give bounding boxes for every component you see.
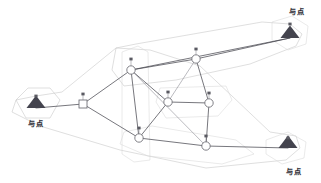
- node-shape-circle[interactable]: [127, 66, 135, 74]
- site-triangle-icon[interactable]: [281, 26, 300, 39]
- node-n7[interactable]: [202, 135, 210, 151]
- edge-n2-to-n5: [196, 59, 209, 103]
- site-flag-marker: [34, 95, 37, 98]
- network-diagram: 与点与点与点: [0, 0, 321, 183]
- edge-n2-to-site-top-right: [196, 38, 290, 59]
- node-shape-circle[interactable]: [164, 98, 172, 106]
- node-shape-circle[interactable]: [135, 134, 143, 142]
- node-flag-marker: [166, 91, 169, 94]
- region-outline-layer: [12, 16, 308, 168]
- edge-n1-to-site-top-right: [131, 38, 290, 70]
- edge-n5-to-n7: [206, 103, 209, 146]
- edge-n7-to-site-bottom-right: [206, 146, 288, 148]
- site-site-left[interactable]: [27, 95, 46, 108]
- node-flag-marker: [137, 127, 140, 130]
- site-flag-marker: [288, 23, 291, 26]
- node-shape-circle[interactable]: [192, 55, 200, 63]
- node-n1[interactable]: [127, 58, 135, 75]
- site-label-text: 与点: [28, 119, 44, 128]
- edge-n1-to-n4: [131, 70, 168, 102]
- node-shape-square[interactable]: [79, 100, 87, 108]
- edge-n6-to-n7: [139, 138, 206, 146]
- node-n2[interactable]: [192, 48, 200, 64]
- edge-n1-to-n7: [131, 70, 206, 146]
- edge-n4-to-n6: [139, 102, 168, 138]
- region-region-bottom-pocket: [120, 126, 254, 164]
- site-site-bottom-right[interactable]: [279, 136, 298, 149]
- node-n3[interactable]: [79, 93, 87, 108]
- edge-n3-to-n1: [83, 70, 131, 104]
- node-flag-marker: [194, 48, 197, 51]
- diagram-canvas: 与点与点与点: [0, 0, 321, 183]
- node-flag-marker: [207, 92, 210, 95]
- site-label-text: 与点: [289, 7, 305, 16]
- node-shape-circle[interactable]: [202, 142, 210, 150]
- node-flag-marker: [81, 93, 84, 96]
- site-marker-layer: [27, 23, 300, 148]
- site-flag-marker: [286, 137, 289, 140]
- node-shape-circle[interactable]: [205, 99, 213, 107]
- node-n4[interactable]: [164, 91, 172, 107]
- edge-layer: [36, 38, 290, 148]
- edge-n3-to-n6: [83, 104, 139, 138]
- region-region-vertical-slab: [122, 46, 150, 162]
- site-site-top-right[interactable]: [281, 23, 300, 38]
- site-label-text: 与点: [286, 167, 302, 176]
- region-region-top-band: [112, 22, 302, 86]
- edge-n4-to-n5: [168, 102, 209, 103]
- node-flag-marker: [204, 135, 207, 138]
- node-flag-marker: [129, 58, 132, 61]
